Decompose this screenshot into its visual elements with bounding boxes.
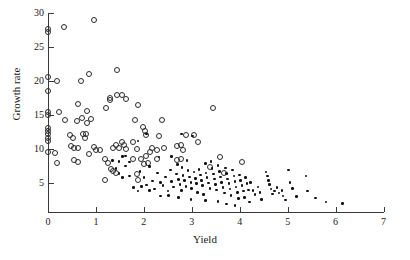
data-point-open — [135, 177, 141, 183]
x-axis-line — [48, 212, 384, 213]
data-point-open — [61, 24, 67, 30]
data-point-filled — [185, 185, 188, 188]
data-point-filled — [145, 133, 148, 136]
x-tick-mark — [192, 207, 193, 212]
data-point-filled — [121, 176, 124, 179]
data-point-filled — [235, 186, 238, 189]
data-point-filled — [268, 183, 271, 186]
data-point-filled — [124, 165, 127, 168]
data-point-open — [45, 149, 51, 155]
data-point-filled — [243, 196, 246, 199]
data-point-open — [210, 105, 216, 111]
data-point-filled — [267, 179, 270, 182]
data-point-filled — [209, 187, 212, 190]
data-point-filled — [182, 174, 185, 177]
data-point-filled — [234, 180, 237, 183]
x-tick-mark — [384, 207, 385, 212]
y-tick-mark — [49, 47, 54, 48]
data-point-filled — [229, 188, 232, 191]
data-point-filled — [199, 174, 202, 177]
y-tick-mark — [49, 183, 54, 184]
data-point-filled — [140, 185, 143, 188]
data-point-filled — [239, 179, 242, 182]
data-point-open — [54, 160, 60, 166]
data-point-filled — [164, 176, 167, 179]
data-point-filled — [128, 175, 131, 178]
data-point-open — [54, 78, 60, 84]
x-tick-label: 6 — [326, 216, 346, 227]
data-point-filled — [284, 199, 287, 202]
data-point-filled — [188, 176, 191, 179]
data-point-filled — [314, 197, 317, 200]
data-point-filled — [260, 198, 263, 201]
data-point-open — [62, 117, 68, 123]
data-point-open — [70, 135, 76, 141]
data-point-open — [159, 117, 165, 123]
data-point-filled — [215, 189, 218, 192]
data-point-filled — [181, 166, 184, 169]
data-point-filled — [183, 179, 186, 182]
data-point-filled — [234, 204, 237, 207]
data-point-filled — [278, 192, 281, 195]
data-point-filled — [167, 190, 170, 193]
data-point-open — [52, 150, 58, 156]
data-point-filled — [145, 184, 148, 187]
data-point-filled — [224, 167, 227, 170]
data-point-filled — [270, 188, 273, 191]
data-point-open — [123, 146, 129, 152]
data-point-filled — [230, 194, 233, 197]
data-point-filled — [214, 183, 217, 186]
data-point-filled — [162, 184, 165, 187]
data-point-filled — [271, 193, 274, 196]
data-point-filled — [213, 178, 216, 181]
x-tick-label: 2 — [134, 216, 154, 227]
data-point-open — [132, 117, 138, 123]
data-point-filled — [244, 176, 247, 179]
data-point-filled — [276, 186, 279, 189]
data-point-open — [134, 146, 140, 152]
data-point-filled — [341, 202, 344, 205]
data-point-filled — [222, 186, 225, 189]
data-point-filled — [143, 176, 146, 179]
x-tick-label: 7 — [374, 216, 394, 227]
data-point-filled — [233, 175, 236, 178]
data-point-open — [75, 101, 81, 107]
data-point-filled — [265, 171, 268, 174]
x-tick-label: 3 — [182, 216, 202, 227]
data-point-open — [102, 177, 108, 183]
data-point-open — [45, 74, 51, 80]
data-point-filled — [111, 159, 114, 162]
x-tick-mark — [96, 207, 97, 212]
data-point-filled — [306, 190, 309, 193]
data-point-open — [105, 160, 111, 166]
data-point-filled — [211, 167, 214, 170]
data-point-open — [217, 154, 223, 160]
data-point-filled — [238, 174, 241, 177]
data-point-filled — [172, 186, 175, 189]
data-point-filled — [124, 155, 127, 158]
data-point-filled — [252, 189, 255, 192]
data-point-filled — [237, 197, 240, 200]
data-point-filled — [193, 171, 196, 174]
data-point-filled — [195, 182, 198, 185]
data-point-filled — [218, 170, 221, 173]
data-point-open — [83, 131, 89, 137]
data-point-filled — [156, 172, 159, 175]
data-point-filled — [198, 168, 201, 171]
data-point-open — [56, 109, 62, 115]
data-point-filled — [159, 195, 162, 198]
data-point-filled — [206, 176, 209, 179]
data-point-open — [130, 156, 136, 162]
data-point-filled — [180, 133, 183, 136]
data-point-filled — [167, 194, 170, 197]
x-tick-mark — [144, 207, 145, 212]
data-point-filled — [151, 180, 154, 183]
data-point-filled — [249, 181, 252, 184]
data-point-open — [75, 159, 81, 165]
data-point-filled — [223, 192, 226, 195]
data-point-filled — [200, 179, 203, 182]
data-point-filled — [226, 178, 229, 181]
y-tick-label: 10 — [22, 143, 44, 154]
data-point-filled — [247, 189, 250, 192]
x-tick-mark — [336, 207, 337, 212]
